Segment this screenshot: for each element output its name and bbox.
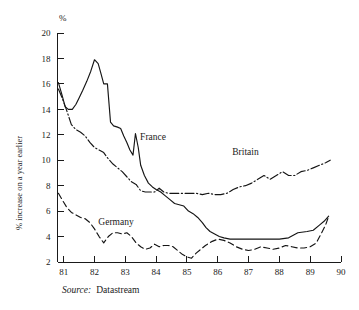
axes <box>58 33 342 263</box>
source-value: Datastream <box>96 285 139 295</box>
line-chart-canvas: 246810121416182081828384858687888990 Fra… <box>0 0 359 310</box>
y-tick-label: 12 <box>42 130 51 140</box>
y-tick-label: 18 <box>42 54 52 64</box>
source-note: Source:Datastream <box>62 285 139 295</box>
y-tick-label: 6 <box>46 206 51 216</box>
x-tick-label: 85 <box>182 267 192 277</box>
series-label-germany: Germany <box>98 217 134 227</box>
x-tick-label: 90 <box>337 267 347 277</box>
source-label: Source: <box>62 285 91 295</box>
series-annotations: FranceBritainGermany <box>98 132 259 227</box>
y-tick-label: 8 <box>46 181 51 191</box>
unit-label: % <box>59 13 67 23</box>
chart-figure: 246810121416182081828384858687888990 Fra… <box>0 0 359 310</box>
series-line-france <box>58 60 328 239</box>
series-line-britain <box>58 89 330 195</box>
x-tick-label: 81 <box>59 267 68 277</box>
series-lines <box>58 60 330 258</box>
x-tick-label: 88 <box>275 267 285 277</box>
y-tick-label: 2 <box>46 257 51 267</box>
x-tick-label: 84 <box>152 267 162 277</box>
y-axis-title: % increase on a year earlier <box>14 136 24 230</box>
x-tick-label: 89 <box>306 267 316 277</box>
y-tick-label: 4 <box>46 232 51 242</box>
y-tick-label: 10 <box>42 155 52 165</box>
series-label-britain: Britain <box>232 147 259 157</box>
x-tick-label: 83 <box>121 267 131 277</box>
axis-tick-labels: 246810121416182081828384858687888990 <box>42 28 347 277</box>
y-tick-label: 14 <box>42 105 52 115</box>
x-tick-label: 82 <box>90 267 99 277</box>
x-tick-label: 87 <box>244 267 254 277</box>
y-tick-label: 20 <box>42 28 52 38</box>
x-tick-label: 86 <box>213 267 223 277</box>
y-tick-label: 16 <box>42 79 52 89</box>
series-label-france: France <box>140 132 166 142</box>
